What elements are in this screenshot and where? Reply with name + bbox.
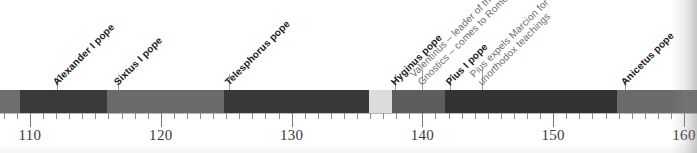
axis-tick-minor (592, 113, 593, 119)
axis-tick-major (161, 113, 162, 127)
axis-tick-minor (383, 113, 384, 119)
axis-tick-minor (69, 113, 70, 119)
axis-tick-label: 130 (280, 127, 303, 144)
segment-pre-alexander (0, 90, 20, 113)
axis-tick-minor (200, 113, 201, 119)
segment-hyginus (392, 90, 445, 113)
axis-tick-minor (488, 113, 489, 119)
axis-tick-minor (462, 113, 463, 119)
axis-tick-minor (344, 113, 345, 119)
annotation-anicetus-pope: Anicetus pope (619, 30, 677, 88)
axis-tick-minor (108, 113, 109, 119)
axis-tick-minor (658, 113, 659, 119)
axis-tick-minor (396, 113, 397, 119)
axis-tick-label: 150 (541, 127, 564, 144)
axis-tick-minor (174, 113, 175, 119)
annotation-telesphorus-pope-line1: Telesphorus pope (223, 18, 292, 87)
axis-tick-minor (187, 113, 188, 119)
axis-tick-minor (579, 113, 580, 119)
axis-tick-major (30, 113, 31, 127)
segment-gap-light (369, 90, 392, 113)
axis-tick-minor (331, 113, 332, 119)
axis-tick-minor (501, 113, 502, 119)
axis-tick-minor (645, 113, 646, 119)
segment-alexander-i (20, 90, 107, 113)
axis-tick-major (292, 113, 293, 127)
axis-tick-minor (540, 113, 541, 119)
axis-tick-minor (566, 113, 567, 119)
annotation-anicetus-pope-line1: Anicetus pope (619, 30, 676, 87)
axis-tick-minor (435, 113, 436, 119)
axis-tick-minor (370, 113, 371, 119)
annotation-alexander-i-pope: Alexander I pope (51, 21, 118, 88)
axis-tick-major (684, 113, 685, 127)
timeline-bar (0, 90, 697, 113)
axis-tick-minor (239, 113, 240, 119)
axis-tick-minor (17, 113, 18, 119)
axis-tick-minor (122, 113, 123, 119)
axis-tick-minor (318, 113, 319, 119)
segment-sixtus-i (107, 90, 224, 113)
axis-tick-label: 110 (19, 127, 42, 144)
segment-anicetus (617, 90, 697, 113)
axis-tick-label: 160 (672, 127, 695, 144)
axis-tick-minor (4, 113, 5, 119)
axis-tick-minor (56, 113, 57, 119)
page-scan-shadow-bottom (0, 143, 697, 153)
axis-tick-minor (135, 113, 136, 119)
segment-telesphorus (224, 90, 369, 113)
axis-tick-minor (226, 113, 227, 119)
axis-tick-minor (357, 113, 358, 119)
axis-tick-major (422, 113, 423, 127)
axis-tick-major (553, 113, 554, 127)
axis-tick-minor (514, 113, 515, 119)
annotation-telesphorus-pope: Telesphorus pope (223, 18, 293, 88)
axis-tick-minor (148, 113, 149, 119)
annotation-sixtus-i-pope: Sixtus I pope (112, 35, 165, 88)
segment-pius-i (445, 90, 617, 113)
axis-tick-minor (265, 113, 266, 119)
axis-tick-minor (527, 113, 528, 119)
axis-tick-minor (606, 113, 607, 119)
axis-tick-minor (475, 113, 476, 119)
axis-tick-minor (632, 113, 633, 119)
axis-tick-minor (43, 113, 44, 119)
annotation-alexander-i-pope-line1: Alexander I pope (51, 21, 117, 87)
axis-tick-minor (82, 113, 83, 119)
axis-tick-label: 140 (411, 127, 434, 144)
annotation-sixtus-i-pope-line1: Sixtus I pope (112, 35, 165, 88)
axis-tick-minor (449, 113, 450, 119)
axis-tick-minor (252, 113, 253, 119)
axis-tick-minor (619, 113, 620, 119)
axis-tick-minor (409, 113, 410, 119)
axis-tick-minor (279, 113, 280, 119)
axis-tick-minor (671, 113, 672, 119)
timeline-figure: 110120130140150160 Alexander I popeSixtu… (0, 0, 697, 153)
axis-tick-minor (213, 113, 214, 119)
axis-tick-minor (95, 113, 96, 119)
axis-tick-minor (305, 113, 306, 119)
axis-tick-label: 120 (149, 127, 172, 144)
